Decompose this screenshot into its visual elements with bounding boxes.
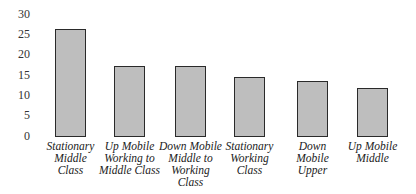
y-tick-label: 30 [4,8,30,20]
bar-chart: 051015202530 Stationary Middle ClassUp M… [0,0,416,194]
y-tick-label: 0 [4,130,30,142]
y-tick-label: 10 [4,89,30,101]
x-tick-label: Up Mobile Middle [333,140,413,164]
bar [175,66,206,137]
bar [357,88,388,138]
bar [55,29,86,138]
bar [234,77,265,138]
bar [114,66,145,138]
y-tick-label: 15 [4,69,30,81]
y-tick-label: 20 [4,48,30,60]
y-tick-label: 25 [4,28,30,40]
y-tick-label: 5 [4,109,30,121]
bar [297,81,328,137]
